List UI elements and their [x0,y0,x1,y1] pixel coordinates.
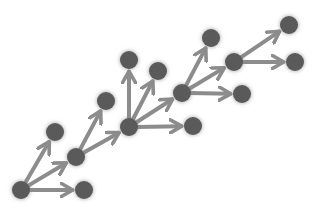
graph-node-H [149,62,167,80]
graph-node-B [75,181,93,199]
graph-node-N [280,16,298,34]
graph-node-G [120,51,138,69]
graph-node-C [46,123,64,141]
edge-arrow-F-I [136,126,181,127]
edge-arrow-L-N [240,32,279,58]
graph-node-E [97,92,115,110]
directed-graph-diagram [0,0,322,212]
graph-node-L [225,53,243,71]
graph-node-D [67,148,85,166]
graph-node-A [12,181,30,199]
graph-node-I [184,117,202,135]
edge-arrow-J-M [189,93,230,94]
graph-node-O [286,53,304,71]
graph-node-F [120,118,138,136]
edges-layer [25,32,283,190]
graph-node-K [202,29,220,47]
graph-node-M [233,85,251,103]
graph-node-J [173,84,191,102]
